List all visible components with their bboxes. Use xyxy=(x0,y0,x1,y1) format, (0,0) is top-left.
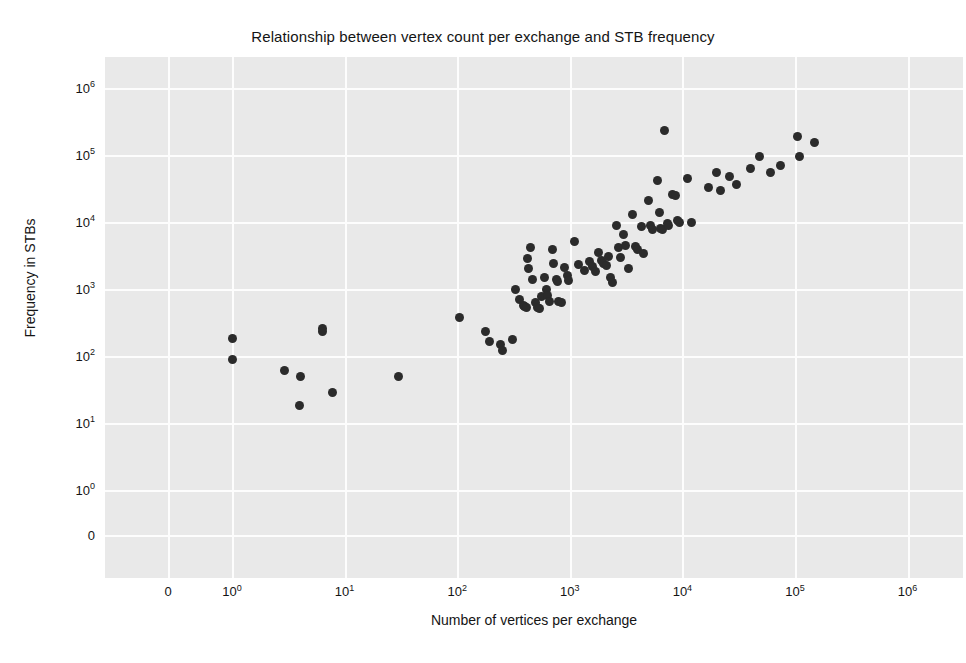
y-tick-label: 103 xyxy=(40,282,95,297)
scatter-point xyxy=(228,355,237,364)
scatter-point xyxy=(687,218,696,227)
scatter-point xyxy=(655,208,664,217)
scatter-point xyxy=(704,183,713,192)
scatter-points-layer xyxy=(105,57,963,578)
scatter-point xyxy=(564,276,573,285)
scatter-point xyxy=(776,161,785,170)
scatter-point xyxy=(328,388,337,397)
scatter-point xyxy=(508,335,517,344)
scatter-point xyxy=(628,210,637,219)
scatter-point xyxy=(511,285,520,294)
x-tick-label: 102 xyxy=(447,584,466,599)
scatter-point xyxy=(653,176,662,185)
scatter-point xyxy=(637,222,646,231)
scatter-point xyxy=(644,196,653,205)
scatter-point xyxy=(526,243,535,252)
scatter-point xyxy=(318,327,327,336)
scatter-point xyxy=(639,249,648,258)
scatter-point xyxy=(535,304,544,313)
x-tick-label: 105 xyxy=(785,584,804,599)
scatter-point xyxy=(793,132,802,141)
scatter-point xyxy=(716,186,725,195)
scatter-point xyxy=(228,334,237,343)
scatter-point xyxy=(548,245,557,254)
scatter-point xyxy=(524,264,533,273)
scatter-point xyxy=(485,337,494,346)
scatter-point xyxy=(660,126,669,135)
scatter-point xyxy=(671,191,680,200)
scatter-point xyxy=(755,152,764,161)
scatter-point xyxy=(746,164,755,173)
scatter-point xyxy=(619,230,628,239)
scatter-point xyxy=(549,259,558,268)
scatter-point xyxy=(394,372,403,381)
scatter-point xyxy=(540,273,549,282)
y-tick-label: 101 xyxy=(40,416,95,431)
x-tick-label: 103 xyxy=(560,584,579,599)
x-tick-label: 0 xyxy=(164,584,171,599)
scatter-point xyxy=(545,297,554,306)
scatter-point xyxy=(675,218,684,227)
scatter-point xyxy=(608,278,617,287)
scatter-point xyxy=(612,221,621,230)
scatter-point xyxy=(498,346,507,355)
scatter-point xyxy=(295,401,304,410)
y-axis-label: Frequency in STBs xyxy=(22,168,38,388)
x-tick-label: 106 xyxy=(898,584,917,599)
scatter-point xyxy=(683,174,692,183)
chart-title: Relationship between vertex count per ex… xyxy=(0,28,966,45)
y-tick-label: 100 xyxy=(40,483,95,498)
scatter-point xyxy=(591,267,600,276)
x-axis-label: Number of vertices per exchange xyxy=(105,612,963,628)
y-tick-label: 102 xyxy=(40,349,95,364)
scatter-point xyxy=(455,313,464,322)
scatter-point xyxy=(570,237,579,246)
scatter-point xyxy=(616,253,625,262)
scatter-point xyxy=(557,298,566,307)
scatter-point xyxy=(481,327,490,336)
scatter-point xyxy=(296,372,305,381)
y-tick-label: 0 xyxy=(40,528,95,543)
y-tick-label: 105 xyxy=(40,148,95,163)
scatter-point xyxy=(725,172,734,181)
scatter-point xyxy=(602,261,611,270)
scatter-point xyxy=(624,264,633,273)
scatter-point xyxy=(795,152,804,161)
scatter-point xyxy=(732,180,741,189)
scatter-point xyxy=(712,168,721,177)
chart-figure: Relationship between vertex count per ex… xyxy=(0,0,966,663)
x-tick-label: 100 xyxy=(222,584,241,599)
scatter-point xyxy=(664,221,673,230)
scatter-point xyxy=(766,168,775,177)
y-tick-label: 106 xyxy=(40,81,95,96)
scatter-point xyxy=(528,275,537,284)
scatter-point xyxy=(522,303,531,312)
x-tick-label: 104 xyxy=(673,584,692,599)
scatter-point xyxy=(604,252,613,261)
scatter-point xyxy=(810,138,819,147)
scatter-point xyxy=(280,366,289,375)
x-tick-label: 101 xyxy=(335,584,354,599)
y-tick-label: 104 xyxy=(40,215,95,230)
scatter-point xyxy=(621,241,630,250)
plot-area xyxy=(105,57,963,578)
scatter-point xyxy=(523,254,532,263)
scatter-point xyxy=(553,277,562,286)
